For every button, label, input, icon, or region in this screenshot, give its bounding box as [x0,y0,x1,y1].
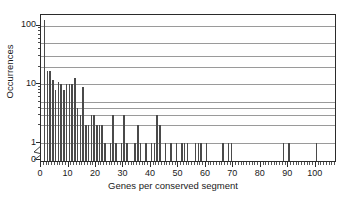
y-axis-title: Occurrences [4,30,15,114]
x-tick-minor [76,162,77,165]
x-tick-label: 50 [172,168,182,178]
x-tick-label: 100 [307,168,322,178]
gridline [41,43,335,44]
x-tick-minor [257,162,258,165]
x-tick-minor [285,162,286,165]
x-tick-minor [191,162,192,165]
bar [85,125,87,161]
bar [283,143,285,161]
x-tick-minor [142,162,143,165]
bar [195,143,197,161]
bar [170,143,172,161]
x-tick-minor [301,162,302,165]
x-tick-minor [70,162,71,165]
y-tick-label: 100 [21,20,36,29]
bar [82,87,84,161]
x-tick-minor [227,162,228,165]
x-tick-minor [274,162,275,165]
x-tick-minor [175,162,176,165]
bar [121,143,123,161]
x-tick-minor [100,162,101,165]
x-tick-minor [183,162,184,165]
x-tick-minor [276,162,277,165]
x-tick-label: 90 [282,168,292,178]
x-tick-minor [133,162,134,165]
x-tick-minor [87,162,88,165]
bar [49,71,51,161]
x-tick-minor [263,162,264,165]
bar [91,115,93,161]
x-tick-minor [180,162,181,165]
x-tick-minor [155,162,156,165]
bar [112,115,114,161]
bar [140,143,142,161]
bar [126,143,128,161]
x-tick-minor [51,162,52,165]
bar [151,143,153,161]
x-tick-major [315,162,316,167]
x-tick-minor [166,162,167,165]
bar [228,143,230,161]
bar [110,143,112,161]
x-tick-minor [164,162,165,165]
chart-figure: 0110100 Occurrences 01020304050607080901… [0,0,346,199]
x-tick-minor [246,162,247,165]
x-tick-minor [186,162,187,165]
x-tick-minor [46,162,47,165]
x-tick-minor [224,162,225,165]
x-tick-label: 0 [37,168,42,178]
x-tick-major [260,162,261,167]
x-tick-minor [323,162,324,165]
bar [101,125,103,161]
x-tick-minor [90,162,91,165]
x-tick-major [95,162,96,167]
x-tick-minor [249,162,250,165]
x-tick-minor [153,162,154,165]
x-tick-minor [84,162,85,165]
gridline [41,108,335,109]
x-tick-minor [208,162,209,165]
y-tick-label: 10 [26,79,36,88]
bar [123,115,125,161]
x-tick-minor [282,162,283,165]
x-tick-minor [172,162,173,165]
x-tick-minor [131,162,132,165]
bar [58,82,60,161]
bar [44,20,46,161]
x-tick-minor [320,162,321,165]
x-tick-minor [136,162,137,165]
bar [88,125,90,161]
x-tick-minor [202,162,203,165]
bar [80,115,82,161]
x-tick-minor [304,162,305,165]
x-tick-minor [114,162,115,165]
x-tick-minor [298,162,299,165]
bar [71,84,73,161]
gridline [41,67,335,68]
x-tick-minor [331,162,332,165]
x-tick-minor [296,162,297,165]
x-tick-minor [98,162,99,165]
x-tick-minor [326,162,327,165]
x-tick-minor [128,162,129,165]
x-tick-minor [109,162,110,165]
bar [165,143,167,161]
x-tick-minor [318,162,319,165]
x-tick-major [232,162,233,167]
x-tick-minor [268,162,269,165]
x-tick-minor [279,162,280,165]
bar [63,90,65,161]
x-tick-minor [329,162,330,165]
bar [206,143,208,161]
x-tick-minor [293,162,294,165]
bar [181,143,183,161]
x-tick-minor [243,162,244,165]
x-axis: 0102030405060708090100 [40,162,336,178]
x-tick-minor [120,162,121,165]
bar [176,143,178,161]
x-tick-minor [54,162,55,165]
x-tick-major [150,162,151,167]
bar [316,143,318,161]
bar [134,143,136,161]
bar [159,125,161,161]
